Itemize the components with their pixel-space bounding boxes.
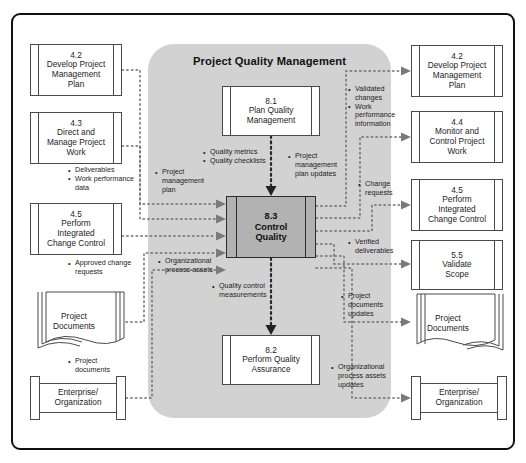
flow-label-approved-change-requests: Approved change requests xyxy=(68,259,146,277)
output-node-label: Project Documents xyxy=(413,314,483,334)
node-line1: Perform xyxy=(61,218,91,228)
flow-item: Organizational process assets updates xyxy=(331,363,393,389)
flow-item: Project management plan updates xyxy=(288,152,344,178)
internal-process-plan-quality-management[interactable]: 8.1 Plan Quality Management xyxy=(222,86,320,136)
flow-label-project-documents: Project documents xyxy=(68,357,128,375)
node-line1: Direct and xyxy=(57,127,95,137)
flow-item: Approved change requests xyxy=(68,259,146,277)
input-node-perform-integrated-change-control[interactable]: 4.5 Perform Integrated Change Control xyxy=(30,203,122,255)
node-line2: Integrated xyxy=(57,228,94,238)
flow-label-quality-metrics-checklists: Quality metrics Quality checklists xyxy=(203,148,266,166)
flow-label-project-management-plan-updates: Project management plan updates xyxy=(288,152,344,178)
flow-label-project-management-plan: Project management plan xyxy=(155,168,207,194)
node-line1: Develop Project xyxy=(428,60,487,70)
internal-process-perform-quality-assurance[interactable]: 8.2 Perform Quality Assurance xyxy=(222,335,320,385)
flow-item: Project documents updates xyxy=(341,292,389,318)
node-line2: Documents xyxy=(427,322,469,332)
node-number: 5.5 xyxy=(451,250,463,260)
flow-label-opa-updates: Organizational process assets updates xyxy=(331,363,393,389)
node-line2: Integrated xyxy=(438,204,475,214)
input-node-label: Project Documents xyxy=(34,312,114,332)
node-line2: Documents xyxy=(53,320,95,330)
node-line1: Enterprise/ xyxy=(58,387,98,397)
flow-label-project-documents-updates: Project documents updates xyxy=(341,292,389,318)
scroll-cap-right xyxy=(116,376,126,420)
node-line3: Change Control xyxy=(47,238,105,248)
internal-process-label: 8.1 Plan Quality Management xyxy=(238,97,304,126)
diagram-canvas: Project Quality Management xyxy=(0,0,526,463)
node-number: 4.5 xyxy=(70,209,82,219)
output-node-perform-integrated-change-control[interactable]: 4.5 Perform Integrated Change Control xyxy=(411,179,503,231)
node-line3: Plan xyxy=(449,80,466,90)
node-line1: Plan Quality xyxy=(249,105,294,115)
node-number: 4.3 xyxy=(70,118,82,128)
box-rail-right xyxy=(305,197,306,257)
flow-label-verified-deliverables: Verified deliverables xyxy=(348,238,396,256)
node-line2: Control Project xyxy=(430,136,485,146)
node-line1: Perform xyxy=(442,194,472,204)
box-rail-right xyxy=(311,336,312,384)
node-number: 8.3 xyxy=(265,211,278,221)
output-node-project-documents[interactable]: Project Documents xyxy=(413,292,507,358)
node-line1: Project xyxy=(61,311,87,321)
node-number: 8.1 xyxy=(265,96,277,106)
node-line1: Enterprise/ xyxy=(439,387,479,397)
input-node-label: 4.3 Direct and Manage Project Work xyxy=(38,119,114,157)
output-node-enterprise-organization[interactable]: Enterprise/ Organization xyxy=(411,376,507,420)
flow-item: Work performance data xyxy=(68,175,146,193)
input-node-label: Enterprise/ Organization xyxy=(39,383,117,413)
box-rail-left xyxy=(419,241,420,289)
node-line2: Assurance xyxy=(251,364,290,374)
input-node-enterprise-organization[interactable]: Enterprise/ Organization xyxy=(30,376,126,420)
output-node-develop-project-management-plan[interactable]: 4.2 Develop Project Management Plan xyxy=(411,45,503,97)
box-rail-right xyxy=(494,112,495,162)
node-line2: Management xyxy=(52,69,100,79)
flow-item: Validated changes xyxy=(348,85,392,103)
flow-item: Organizational process assets xyxy=(158,257,220,275)
box-rail-left xyxy=(236,197,237,257)
node-line2: Manage Project xyxy=(47,137,105,147)
flow-label-organizational-process-assets: Organizational process assets xyxy=(158,257,220,275)
input-node-direct-and-manage-project-work[interactable]: 4.3 Direct and Manage Project Work xyxy=(30,112,122,164)
box-rail-right xyxy=(311,87,312,135)
flow-item: Work performance information xyxy=(348,103,392,129)
node-line3: Plan xyxy=(68,79,85,89)
box-rail-left xyxy=(230,87,231,135)
output-node-label: 5.5 Validate Scope xyxy=(433,251,480,280)
central-process-control-quality[interactable]: 8.3 Control Quality xyxy=(226,196,316,258)
output-node-label: 4.2 Develop Project Management Plan xyxy=(419,52,496,90)
node-line2: Quality xyxy=(255,232,286,242)
knowledge-area-title: Project Quality Management xyxy=(148,55,391,67)
node-number: 8.2 xyxy=(265,345,277,355)
flow-label-quality-control-measurements: Quality control measurements xyxy=(212,282,268,300)
node-line1: Perform Quality xyxy=(242,354,300,364)
scroll-cap-right xyxy=(497,376,507,420)
node-line2: Organization xyxy=(435,397,482,407)
node-line3: Change Control xyxy=(428,214,486,224)
node-line1: Monitor and xyxy=(435,126,479,136)
node-number: 4.2 xyxy=(70,50,82,60)
node-line1: Control xyxy=(255,222,288,232)
node-number: 4.5 xyxy=(451,185,463,195)
input-node-project-documents[interactable]: Project Documents xyxy=(34,290,128,356)
flow-label-deliverables-wpd: Deliverables Work performance data xyxy=(68,166,146,192)
box-rail-right xyxy=(494,241,495,289)
node-line3: Work xyxy=(447,146,466,156)
node-line3: Work xyxy=(66,147,85,157)
output-node-monitor-and-control-project-work[interactable]: 4.4 Monitor and Control Project Work xyxy=(411,111,503,163)
node-line2: Management xyxy=(247,115,295,125)
flow-item: Project documents xyxy=(68,357,128,375)
input-node-develop-project-management-plan[interactable]: 4.2 Develop Project Management Plan xyxy=(30,44,122,96)
output-node-label: 4.4 Monitor and Control Project Work xyxy=(421,118,494,156)
box-rail-left xyxy=(230,336,231,384)
node-line2: Scope xyxy=(445,269,469,279)
node-line1: Develop Project xyxy=(47,59,106,69)
output-node-label: Enterprise/ Organization xyxy=(420,383,498,413)
central-process-label: 8.3 Control Quality xyxy=(246,211,297,243)
internal-process-label: 8.2 Perform Quality Assurance xyxy=(233,346,309,375)
output-node-validate-scope[interactable]: 5.5 Validate Scope xyxy=(411,240,503,290)
flow-item: Verified deliverables xyxy=(348,238,396,256)
flow-item: Project management plan xyxy=(155,168,207,194)
input-node-label: 4.2 Develop Project Management Plan xyxy=(38,51,115,89)
flow-item: Quality checklists xyxy=(203,157,266,166)
